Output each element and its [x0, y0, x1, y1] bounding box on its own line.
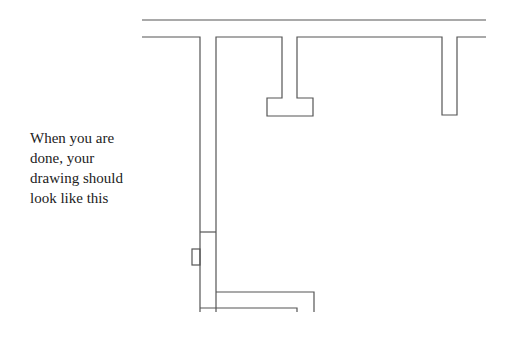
- small-box: [192, 249, 200, 265]
- t-shape-left: [216, 37, 486, 292]
- floor-plan-drawing: [0, 0, 513, 338]
- left-wall-outer: [142, 37, 200, 312]
- bottom-corridor-upper: [216, 292, 314, 312]
- bottom-corridor-lower: [200, 308, 297, 312]
